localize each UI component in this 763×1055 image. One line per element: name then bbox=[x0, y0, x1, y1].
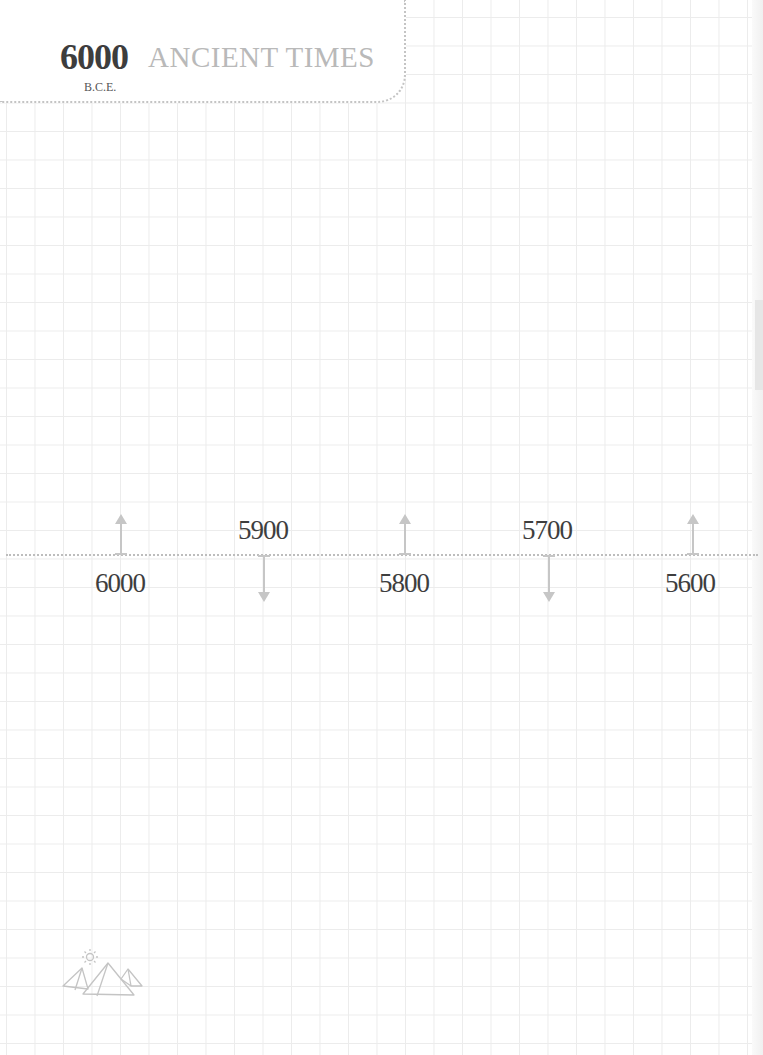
timeline-year-label: 6000 bbox=[80, 568, 160, 599]
timeline-year-label: 5700 bbox=[507, 515, 587, 546]
header-title: ANCIENT TIMES bbox=[148, 41, 375, 74]
timeline-arrow-up-icon bbox=[399, 514, 411, 555]
grid-page bbox=[0, 0, 752, 1055]
page-tab-marker bbox=[755, 300, 763, 390]
timeline-arrow-down-icon bbox=[258, 555, 270, 603]
header-year: 6000 bbox=[60, 36, 128, 78]
timeline-year-label: 5800 bbox=[364, 568, 444, 599]
pyramids-with-sun-icon bbox=[58, 946, 148, 1001]
timeline-year-label: 5600 bbox=[650, 568, 730, 599]
timeline-year-label: 5900 bbox=[223, 515, 303, 546]
timeline-arrow-up-icon bbox=[687, 514, 699, 555]
timeline-arrow-up-icon bbox=[115, 514, 127, 555]
timeline-arrow-down-icon bbox=[543, 555, 555, 603]
header-era: B.C.E. bbox=[84, 80, 116, 95]
header-box: 6000 ANCIENT TIMES B.C.E. bbox=[0, 0, 406, 103]
page-edge bbox=[752, 0, 763, 1055]
